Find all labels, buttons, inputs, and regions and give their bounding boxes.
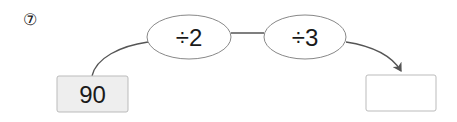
operation-label-1: ÷2 [176, 24, 203, 51]
start-value: 90 [79, 81, 106, 108]
operation-diagram: ⑦ 90 ÷2 ÷3 [0, 0, 457, 122]
arrow-op2-to-answer [346, 42, 401, 71]
operation-label-2: ÷3 [292, 24, 319, 51]
answer-box[interactable] [366, 75, 436, 111]
problem-number: ⑦ [23, 11, 37, 28]
connector-start-to-op1 [92, 42, 148, 76]
